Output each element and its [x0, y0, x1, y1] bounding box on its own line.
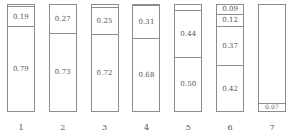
- bar-stack[interactable]: 0.090.120.370.42: [216, 4, 244, 112]
- x-axis-tick-label: 7: [251, 118, 293, 133]
- bar-segment[interactable]: 0.37: [217, 27, 243, 66]
- bar-column: 0.440.50: [167, 0, 209, 118]
- segment-value-label: 0.73: [55, 68, 71, 76]
- x-axis-tick-label: 4: [126, 118, 168, 133]
- x-axis-tick-label: 3: [84, 118, 126, 133]
- segment-value-label: 0.50: [180, 80, 196, 88]
- x-axis-tick-label: 1: [0, 118, 42, 133]
- bar-column: 0.090.120.370.42: [209, 0, 251, 118]
- x-axis-tick-label: 6: [209, 118, 251, 133]
- bar-segment[interactable]: 0.07: [259, 104, 285, 111]
- stacked-bar-chart: 0.190.790.270.730.250.720.310.680.440.50…: [0, 0, 293, 139]
- bar-column: 0.270.73: [42, 0, 84, 118]
- bar-stack[interactable]: 0.310.68: [132, 4, 160, 112]
- bar-stack[interactable]: 0.07: [258, 4, 286, 112]
- segment-value-label: 0.79: [13, 65, 29, 73]
- bar-stack[interactable]: 0.270.73: [49, 4, 77, 112]
- bar-segment[interactable]: 0.27: [50, 5, 76, 34]
- bar-column: 0.190.79: [0, 0, 42, 118]
- bar-segment[interactable]: 0.44: [175, 11, 201, 58]
- bar-segment[interactable]: 0.31: [133, 6, 159, 39]
- segment-value-label: 0.44: [180, 30, 196, 38]
- segment-value-label: 0.27: [55, 15, 71, 23]
- bar-segment[interactable]: 0.79: [8, 27, 34, 111]
- segment-value-label: 0.19: [13, 13, 29, 21]
- bar-column: 0.250.72: [84, 0, 126, 118]
- bar-segment[interactable]: 0.72: [92, 35, 118, 111]
- x-axis-tick-label: 5: [167, 118, 209, 133]
- segment-value-label: 0.72: [97, 69, 113, 77]
- segment-value-label: 0.37: [222, 42, 238, 50]
- segment-value-label: 0.68: [138, 71, 154, 79]
- bar-segment[interactable]: 0.50: [175, 58, 201, 111]
- bar-segment[interactable]: 0.73: [50, 34, 76, 111]
- bar-segment[interactable]: 0.42: [217, 66, 243, 111]
- segment-value-label: 0.31: [138, 18, 154, 26]
- x-axis-tick-label: 2: [42, 118, 84, 133]
- bar-segment[interactable]: [259, 5, 285, 104]
- bar-segment[interactable]: 0.19: [8, 7, 34, 27]
- segment-value-label: 0.09: [222, 5, 238, 13]
- segment-value-label: 0.12: [222, 16, 238, 24]
- bar-segment[interactable]: 0.25: [92, 8, 118, 35]
- bar-stack[interactable]: 0.250.72: [91, 4, 119, 112]
- segment-value-label: 0.42: [222, 85, 238, 93]
- bar-column: 0.07: [251, 0, 293, 118]
- bar-stack[interactable]: 0.440.50: [174, 4, 202, 112]
- bar-segment[interactable]: 0.12: [217, 15, 243, 28]
- bar-column: 0.310.68: [126, 0, 168, 118]
- bar-segment[interactable]: 0.68: [133, 39, 159, 111]
- segment-value-label: 0.07: [265, 104, 279, 110]
- bar-segment[interactable]: 0.09: [217, 5, 243, 15]
- segment-value-label: 0.25: [97, 17, 113, 25]
- bar-stack[interactable]: 0.190.79: [7, 4, 35, 112]
- x-axis-tick-labels: 1234567: [0, 118, 293, 139]
- plot-area: 0.190.790.270.730.250.720.310.680.440.50…: [0, 0, 293, 118]
